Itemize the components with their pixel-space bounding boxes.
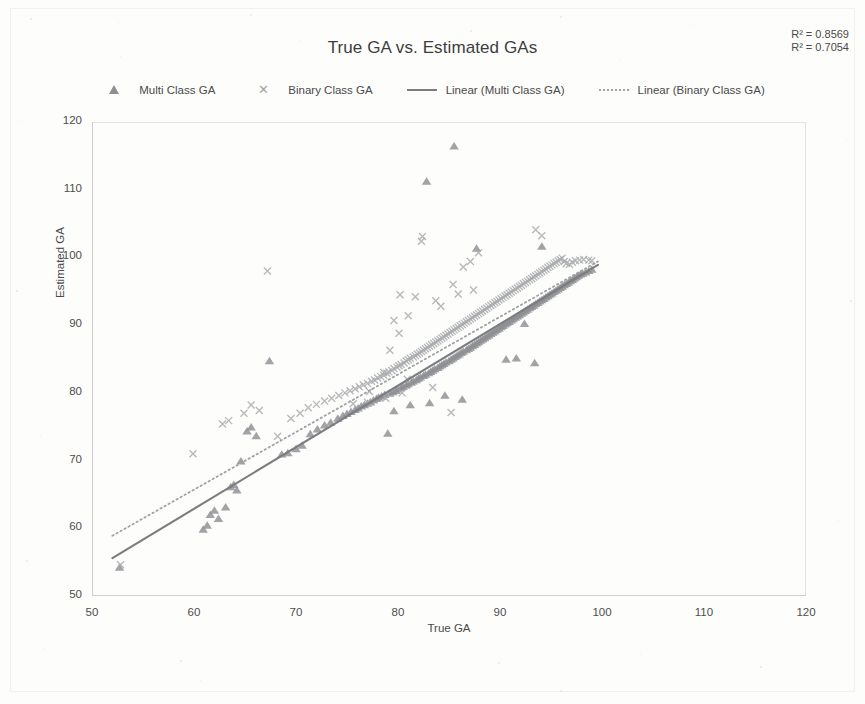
data-point-cross xyxy=(297,410,304,417)
legend-label-binary-class-ga: Binary Class GA xyxy=(288,84,372,96)
y-axis-title: Estimated GA xyxy=(54,227,66,298)
trendline-linear-multi-class-ga- xyxy=(112,265,598,558)
data-point-triangle xyxy=(422,177,431,184)
scan-speckle xyxy=(470,30,472,32)
data-point-triangle xyxy=(512,354,521,361)
cross-marker-icon: ✕ xyxy=(249,84,279,96)
scan-speckle xyxy=(16,290,18,292)
scan-speckle xyxy=(44,648,45,649)
x-axis-tick-label: 120 xyxy=(781,606,831,618)
data-point-cross xyxy=(397,291,404,298)
y-axis-tick-label: 120 xyxy=(44,114,82,126)
data-point-triangle xyxy=(520,319,529,326)
data-point-cross xyxy=(305,404,312,411)
data-point-cross xyxy=(419,233,426,240)
data-point-triangle xyxy=(246,423,255,430)
data-point-cross xyxy=(467,258,474,265)
x-axis-tick-label: 60 xyxy=(169,606,219,618)
data-point-cross xyxy=(219,421,226,428)
data-point-cross xyxy=(335,392,342,399)
data-point-cross xyxy=(429,384,436,391)
data-point-triangle xyxy=(221,503,230,510)
scan-speckle xyxy=(18,120,19,121)
trendline-linear-binary-class-ga- xyxy=(112,261,598,535)
data-point-triangle xyxy=(214,514,223,521)
data-point-triangle xyxy=(203,521,212,528)
x-axis-tick-label: 110 xyxy=(679,606,729,618)
x-axis-tick-label: 50 xyxy=(67,606,117,618)
scan-speckle xyxy=(560,690,562,692)
x-axis-tick-label: 100 xyxy=(577,606,627,618)
legend-item-multi-class-ga[interactable]: Multi Class GA xyxy=(100,84,215,96)
y-axis-tick-label: 60 xyxy=(44,520,82,532)
legend-item-binary-class-ga[interactable]: ✕ Binary Class GA xyxy=(249,84,372,96)
data-point-cross xyxy=(321,397,328,404)
scan-speckle xyxy=(40,436,41,437)
data-point-cross xyxy=(460,263,467,270)
scan-speckle xyxy=(250,14,252,16)
scan-speckle xyxy=(180,660,182,662)
legend-item-linear-binary-class-ga[interactable]: Linear (Binary Class GA) xyxy=(599,84,765,96)
data-point-cross xyxy=(189,450,196,457)
scan-speckle xyxy=(690,24,691,25)
scan-speckle xyxy=(640,654,641,655)
triangle-marker-icon xyxy=(100,84,130,96)
x-axis-tick-label: 80 xyxy=(373,606,423,618)
data-point-triangle xyxy=(501,355,510,362)
data-point-cross xyxy=(532,226,539,233)
y-axis-tick-label: 80 xyxy=(44,385,82,397)
data-point-triangle xyxy=(389,407,398,414)
data-point-cross xyxy=(328,395,335,402)
scatter-plot-canvas xyxy=(92,122,806,596)
data-point-cross xyxy=(432,297,439,304)
y-axis-tick-label: 70 xyxy=(44,453,82,465)
scan-speckle xyxy=(846,140,847,141)
scan-speckle xyxy=(402,20,403,21)
scan-speckle xyxy=(760,666,762,668)
legend-label-linear-binary-class-ga: Linear (Binary Class GA) xyxy=(638,84,765,96)
y-axis-tick-label: 110 xyxy=(44,182,82,194)
scan-speckle xyxy=(498,662,500,664)
chart-legend: Multi Class GA ✕ Binary Class GA Linear … xyxy=(0,84,865,96)
y-axis-tick-label: 90 xyxy=(44,317,82,329)
scan-speckle xyxy=(118,22,119,23)
scan-speckle xyxy=(26,560,28,562)
data-point-cross xyxy=(313,401,320,408)
data-point-cross xyxy=(225,417,232,424)
legend-label-linear-multi-class-ga: Linear (Multi Class GA) xyxy=(446,84,565,96)
data-point-cross xyxy=(248,402,255,409)
scan-speckle xyxy=(200,680,201,681)
data-point-cross xyxy=(264,267,271,274)
chart-title: True GA vs. Estimated GAs xyxy=(0,38,865,58)
data-point-triangle xyxy=(210,506,219,513)
data-point-cross xyxy=(390,317,397,324)
data-point-cross xyxy=(274,433,281,440)
scan-speckle xyxy=(838,520,839,521)
data-point-triangle xyxy=(449,142,458,149)
x-axis-tick-label: 70 xyxy=(271,606,321,618)
data-point-cross xyxy=(448,409,455,416)
r-squared-multi-class: R² = 0.8569 xyxy=(791,28,849,41)
data-point-cross xyxy=(455,290,462,297)
legend-item-linear-multi-class-ga[interactable]: Linear (Multi Class GA) xyxy=(407,84,565,96)
series-multi-class-ga xyxy=(115,142,597,571)
y-axis-tick-label: 100 xyxy=(44,249,82,261)
scan-speckle xyxy=(850,300,852,302)
scan-speckle xyxy=(620,60,621,61)
plot-area: Estimated GA True GA 5060708090100110120… xyxy=(92,122,806,596)
data-point-cross xyxy=(450,281,457,288)
r-squared-annotations: R² = 0.8569 R² = 0.7054 xyxy=(791,28,849,54)
data-point-cross xyxy=(240,410,247,417)
data-point-cross xyxy=(386,347,393,354)
y-axis-tick-label: 50 xyxy=(44,588,82,600)
data-point-cross xyxy=(405,312,412,319)
data-point-cross xyxy=(256,407,263,414)
r-squared-binary-class: R² = 0.7054 xyxy=(791,41,849,54)
legend-label-multi-class-ga: Multi Class GA xyxy=(139,84,215,96)
data-point-triangle xyxy=(406,401,415,408)
scan-speckle xyxy=(330,668,331,669)
data-point-triangle xyxy=(530,359,539,366)
x-axis-tick-label: 90 xyxy=(475,606,525,618)
data-point-triangle xyxy=(440,391,449,398)
data-point-cross xyxy=(287,415,294,422)
